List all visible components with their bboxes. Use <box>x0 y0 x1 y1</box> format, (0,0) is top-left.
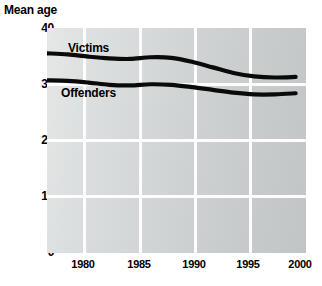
x-tick-label-1990: 1990 <box>172 258 216 270</box>
x-tick-label-1995: 1995 <box>226 258 270 270</box>
x-tick-label-1985: 1985 <box>117 258 161 270</box>
series-line-victims <box>47 53 296 77</box>
x-tick-label-1980: 1980 <box>61 258 105 270</box>
y-axis-title: Mean age <box>4 3 57 17</box>
x-tick-label-2000: 2000 <box>278 258 322 270</box>
plot-area <box>47 28 306 253</box>
series-label-offenders: Offenders <box>61 86 116 100</box>
series-lines <box>47 28 306 253</box>
series-label-victims: Victims <box>68 41 109 55</box>
mean-age-line-chart: Mean age 40 30 20 10 0 1980 1985 1990 19… <box>0 0 322 286</box>
